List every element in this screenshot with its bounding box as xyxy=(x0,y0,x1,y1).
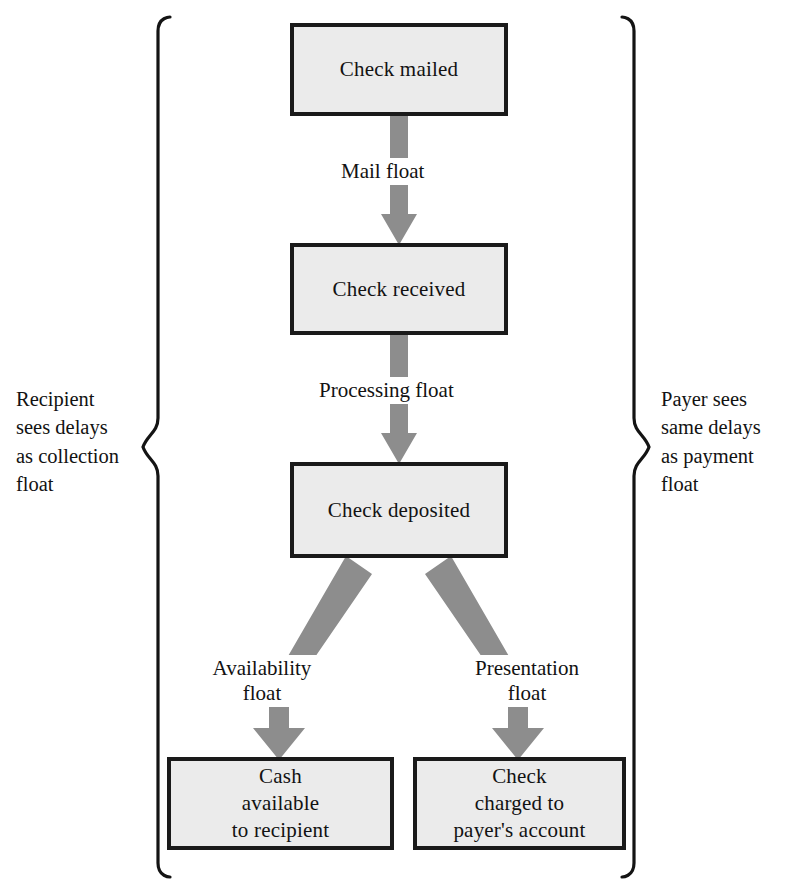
edge-label-availability-float: Availability float xyxy=(193,655,331,707)
node-check-received[interactable]: Check received xyxy=(290,243,508,335)
node-label: Check received xyxy=(327,276,472,303)
edge-label-processing-float: Processing float xyxy=(312,377,461,404)
payer-annotation: Payer sees same delays as payment float xyxy=(661,385,785,498)
node-label: Check charged to payer's account xyxy=(447,763,591,844)
node-check-mailed[interactable]: Check mailed xyxy=(290,23,508,116)
node-check-deposited[interactable]: Check deposited xyxy=(290,462,508,558)
edge-label-presentation-float: Presentation float xyxy=(455,655,599,707)
node-label: Check deposited xyxy=(322,497,476,524)
diagram-canvas: Recipient sees delays as collection floa… xyxy=(0,0,790,893)
node-cash-available[interactable]: Cash available to recipient xyxy=(167,757,394,850)
node-check-charged[interactable]: Check charged to payer's account xyxy=(413,757,626,850)
recipient-annotation: Recipient sees delays as collection floa… xyxy=(16,385,144,498)
left-brace-icon xyxy=(140,14,174,880)
node-label: Check mailed xyxy=(334,56,464,83)
node-label: Cash available to recipient xyxy=(226,763,335,844)
edge-label-mail-float: Mail float xyxy=(334,158,431,185)
right-brace-icon xyxy=(618,14,652,880)
